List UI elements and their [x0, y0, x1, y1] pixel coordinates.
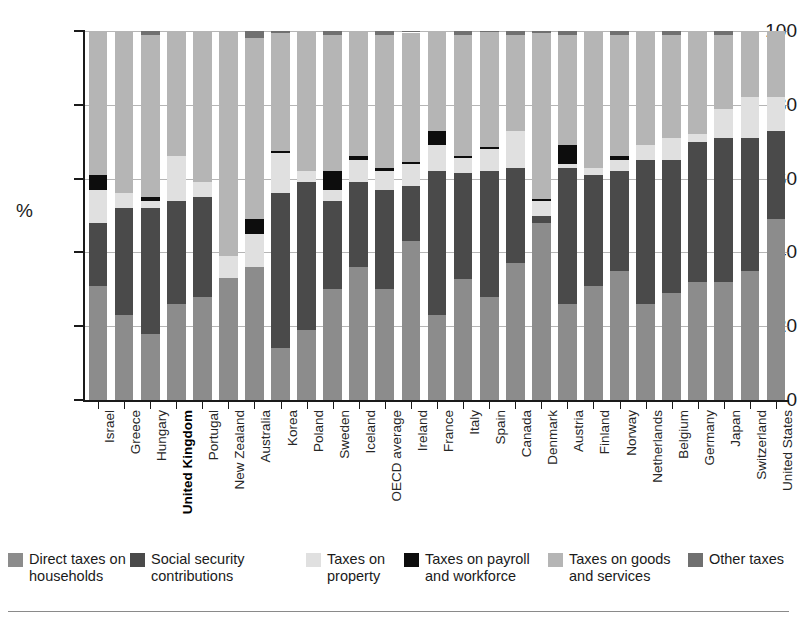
- bar-segment: [245, 38, 264, 219]
- bar-column[interactable]: [662, 31, 681, 400]
- bar-column[interactable]: [558, 31, 577, 400]
- bar-segment: [297, 31, 316, 171]
- bar-segment: [245, 219, 264, 234]
- legend-label: Social security contributions: [151, 551, 244, 585]
- bar-segment: [141, 208, 160, 333]
- x-tick: [672, 402, 673, 409]
- x-tick: [411, 402, 412, 409]
- x-tick: [281, 402, 282, 409]
- bar-segment: [89, 175, 108, 190]
- x-axis-label: Netherlands: [651, 410, 665, 483]
- legend-item[interactable]: Social security contributions: [130, 551, 244, 585]
- bar-segment: [271, 31, 290, 33]
- legend-swatch-icon: [548, 553, 563, 567]
- bar-segment: [506, 31, 525, 35]
- bar-segment: [141, 197, 160, 201]
- stacked-bar: [245, 31, 264, 400]
- bar-column[interactable]: [245, 31, 264, 400]
- bar-segment: [636, 304, 655, 400]
- bar-column[interactable]: [323, 31, 342, 400]
- chart-legend: Direct taxes on householdsSocial securit…: [8, 551, 789, 597]
- bar-segment: [741, 138, 760, 271]
- bar-segment: [245, 234, 264, 267]
- bar-column[interactable]: [89, 31, 108, 400]
- bar-column[interactable]: [115, 31, 134, 400]
- bar-column[interactable]: [480, 31, 499, 400]
- bar-segment: [558, 31, 577, 35]
- bar-column[interactable]: [454, 31, 473, 400]
- bar-segment: [297, 330, 316, 400]
- legend-item[interactable]: Direct taxes on households: [8, 551, 126, 585]
- stacked-bar: [741, 31, 760, 400]
- x-tick: [150, 402, 151, 409]
- stacked-bar: [454, 31, 473, 400]
- bar-segment: [610, 171, 629, 271]
- bar-column[interactable]: [636, 31, 655, 400]
- bar-column[interactable]: [767, 31, 786, 400]
- legend-item[interactable]: Taxes on goods and services: [548, 551, 671, 585]
- footer-rule: [8, 611, 789, 612]
- bar-segment: [375, 190, 394, 290]
- bar-column[interactable]: [375, 31, 394, 400]
- bar-segment: [193, 297, 212, 400]
- stacked-bar: [532, 31, 551, 400]
- bar-column[interactable]: [428, 31, 447, 400]
- bar-column[interactable]: [219, 31, 238, 400]
- bar-column[interactable]: [532, 31, 551, 400]
- bar-column[interactable]: [714, 31, 733, 400]
- stacked-bar: [375, 31, 394, 400]
- x-axis-label: OECD average: [390, 410, 404, 502]
- bar-column[interactable]: [167, 31, 186, 400]
- bar-segment: [115, 193, 134, 208]
- bar-segment: [741, 97, 760, 138]
- stacked-bar: [349, 31, 368, 400]
- stacked-bar: [610, 31, 629, 400]
- bar-column[interactable]: [193, 31, 212, 400]
- x-axis-label: Switzerland: [755, 410, 769, 480]
- bar-segment: [767, 131, 786, 220]
- bar-column[interactable]: [349, 31, 368, 400]
- bar-segment: [89, 223, 108, 286]
- bar-segment: [662, 160, 681, 293]
- bar-segment: [454, 173, 473, 279]
- legend-item[interactable]: Other taxes: [688, 551, 784, 568]
- x-axis-label: Hungary: [155, 410, 169, 461]
- bar-segment: [558, 145, 577, 163]
- legend-item[interactable]: Taxes on payroll and workforce: [404, 551, 530, 585]
- x-tick: [698, 402, 699, 409]
- bar-column[interactable]: [141, 31, 160, 400]
- legend-item[interactable]: Taxes on property: [306, 551, 385, 585]
- bar-column[interactable]: [584, 31, 603, 400]
- bar-column[interactable]: [688, 31, 707, 400]
- stacked-bar: [219, 31, 238, 400]
- bar-column[interactable]: [610, 31, 629, 400]
- bar-segment: [219, 31, 238, 256]
- bar-segment: [636, 160, 655, 304]
- x-axis-label: United Kingdom: [181, 410, 195, 514]
- bar-segment: [349, 156, 368, 160]
- bar-segment: [89, 190, 108, 223]
- legend-label: Taxes on goods and services: [569, 551, 671, 585]
- bar-column[interactable]: [741, 31, 760, 400]
- bar-column[interactable]: [402, 31, 421, 400]
- bar-segment: [271, 151, 290, 153]
- x-axis-line: [83, 400, 789, 402]
- bar-segment: [741, 271, 760, 400]
- bar-segment: [688, 31, 707, 134]
- bar-segment: [323, 289, 342, 400]
- stacked-bar: [636, 31, 655, 400]
- bar-segment: [454, 279, 473, 400]
- stacked-bar: [584, 31, 603, 400]
- bar-segment: [428, 315, 447, 400]
- bar-segment: [402, 33, 421, 162]
- x-axis-label: Belgium: [677, 410, 691, 459]
- bar-column[interactable]: [271, 31, 290, 400]
- bar-column[interactable]: [506, 31, 525, 400]
- bar-segment: [428, 31, 447, 131]
- bar-segment: [558, 164, 577, 168]
- bar-column[interactable]: [297, 31, 316, 400]
- bar-segment: [532, 201, 551, 216]
- bar-segment: [767, 219, 786, 400]
- bar-segment: [506, 35, 525, 131]
- legend-swatch-icon: [404, 553, 419, 567]
